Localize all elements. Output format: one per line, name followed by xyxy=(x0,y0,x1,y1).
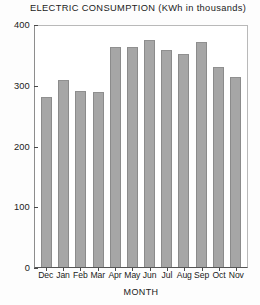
x-tick-label: Aug xyxy=(176,270,193,284)
y-tick-label: 0 xyxy=(2,263,30,273)
bar-slot xyxy=(158,26,175,267)
y-tick-label: 400 xyxy=(2,20,30,30)
bar-slot xyxy=(107,26,124,267)
x-tick-mark xyxy=(132,268,133,271)
bar[interactable] xyxy=(144,40,155,267)
bar[interactable] xyxy=(93,92,104,267)
bar-slot xyxy=(227,26,244,267)
x-tick-label: Nov xyxy=(228,270,245,284)
bar-slot xyxy=(55,26,72,267)
x-tick-mark xyxy=(150,268,151,271)
bar[interactable] xyxy=(178,54,189,267)
x-tick-label: Feb xyxy=(72,270,89,284)
y-axis: 0100200300400 xyxy=(0,25,30,268)
x-tick-mark xyxy=(202,268,203,271)
bar[interactable] xyxy=(196,42,207,267)
y-tick-mark xyxy=(34,147,38,148)
x-tick-mark xyxy=(167,268,168,271)
bar[interactable] xyxy=(41,97,52,267)
x-axis: DecJanFebMarAprMayJunJulAugSepOctNov xyxy=(34,270,248,284)
bar[interactable] xyxy=(110,47,121,267)
bar-slot xyxy=(210,26,227,267)
x-axis-title: MONTH xyxy=(34,287,248,297)
x-tick-label: Dec xyxy=(37,270,54,284)
x-tick-label: Jul xyxy=(158,270,175,284)
x-tick-label: Jun xyxy=(141,270,158,284)
y-tick-mark xyxy=(34,268,38,269)
x-tick-mark xyxy=(219,268,220,271)
bar[interactable] xyxy=(75,91,86,267)
x-tick-label: Oct xyxy=(210,270,227,284)
x-tick-mark xyxy=(236,268,237,271)
x-tick-mark xyxy=(115,268,116,271)
x-tick-mark xyxy=(63,268,64,271)
bar-series xyxy=(35,26,247,267)
x-tick-label: Sep xyxy=(193,270,210,284)
x-tick-mark xyxy=(98,268,99,271)
y-tick-mark xyxy=(34,86,38,87)
x-tick-label: May xyxy=(124,270,141,284)
plot-area xyxy=(34,25,248,268)
y-tick-label: 200 xyxy=(2,142,30,152)
bar-slot xyxy=(72,26,89,267)
bar[interactable] xyxy=(161,50,172,267)
x-tick-label: Jan xyxy=(54,270,71,284)
chart-title: ELECTRIC CONSUMPTION (KWh in thousands) xyxy=(30,3,258,13)
bar-slot xyxy=(90,26,107,267)
x-tick-label: Apr xyxy=(106,270,123,284)
y-tick-mark xyxy=(34,207,38,208)
chart-figure: ELECTRIC CONSUMPTION (KWh in thousands) … xyxy=(0,0,260,305)
bar-slot xyxy=(38,26,55,267)
y-tick-label: 300 xyxy=(2,81,30,91)
x-tick-mark xyxy=(184,268,185,271)
bar-slot xyxy=(141,26,158,267)
bar[interactable] xyxy=(58,80,69,267)
bar-slot xyxy=(175,26,192,267)
bar[interactable] xyxy=(127,47,138,267)
x-tick-mark xyxy=(80,268,81,271)
bar-slot xyxy=(124,26,141,267)
bar-slot xyxy=(193,26,210,267)
x-tick-mark xyxy=(46,268,47,271)
y-tick-label: 100 xyxy=(2,202,30,212)
y-tick-mark xyxy=(34,25,38,26)
x-tick-label: Mar xyxy=(89,270,106,284)
bar[interactable] xyxy=(213,67,224,267)
bar[interactable] xyxy=(230,77,241,267)
